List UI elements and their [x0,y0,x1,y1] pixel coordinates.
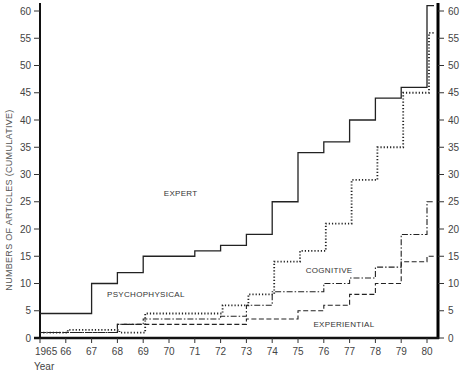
right-axis-tick-label: 50 [448,60,460,71]
right-axis-tick-label: 15 [448,251,460,262]
right-axis-tick-label: 30 [448,169,460,180]
x-axis-tick-label: 74 [267,346,279,357]
series-label-experiential: EXPERIENTIAL [313,320,374,329]
left-axis-tick-label: 20 [20,224,32,235]
series-label-psychophysical: PSYCHOPHYSICAL [107,290,185,299]
left-axis-tick-label: 45 [20,87,32,98]
right-y-axis: 051015202530354045505560 [438,3,460,344]
series-label-expert: EXPERT [164,189,198,198]
right-axis-tick-label: 60 [448,6,460,17]
left-axis-tick-label: 15 [20,251,32,262]
left-axis-tick-label: 0 [25,333,31,344]
right-axis-tick-label: 45 [448,87,460,98]
x-axis-tick-label: 70 [163,346,175,357]
left-axis-tick-label: 50 [20,60,32,71]
cumulative-articles-chart: 051015202530354045505560 051015202530354… [0,0,466,375]
right-axis-tick-label: 40 [448,115,460,126]
left-axis-tick-label: 25 [20,196,32,207]
series-label-cognitive: COGNITIVE [306,266,353,275]
y-axis-title: NUMBERS OF ARTICLES (CUMULATIVE) [4,109,14,290]
right-axis-tick-label: 10 [448,278,460,289]
right-axis-tick-label: 0 [448,333,454,344]
series-line-cognitive [40,33,434,333]
left-axis-tick-label: 10 [20,278,32,289]
series-line-psychophysical [40,202,434,333]
x-axis-tick-label: 1965 [35,346,58,357]
x-axis-tick-label: 78 [370,346,382,357]
x-axis-title: Year [34,361,55,372]
x-axis-tick-label: 77 [344,346,356,357]
x-axis-tick-label: 76 [318,346,330,357]
x-axis-tick-label: 80 [421,346,433,357]
left-axis-tick-label: 55 [20,33,32,44]
right-axis-tick-label: 55 [448,33,460,44]
series-line-expert [40,6,434,314]
x-axis-tick-label: 79 [396,346,408,357]
series-labels: EXPERTCOGNITIVEPSYCHOPHYSICALEXPERIENTIA… [107,189,375,329]
right-axis-tick-label: 35 [448,142,460,153]
left-axis-tick-label: 40 [20,115,32,126]
x-axis-tick-label: 69 [138,346,150,357]
x-axis-tick-label: 73 [241,346,253,357]
right-axis-tick-label: 25 [448,196,460,207]
x-axis-tick-label: 66 [60,346,72,357]
right-axis-tick-label: 5 [448,305,454,316]
left-y-axis: 051015202530354045505560 [20,3,40,344]
x-axis-tick-label: 72 [215,346,227,357]
left-axis-tick-label: 35 [20,142,32,153]
x-axis-tick-label: 75 [292,346,304,357]
right-axis-tick-label: 20 [448,224,460,235]
left-axis-tick-label: 30 [20,169,32,180]
left-axis-tick-label: 5 [25,305,31,316]
x-axis-tick-label: 68 [112,346,124,357]
series-lines [40,6,434,333]
left-axis-tick-label: 60 [20,6,32,17]
x-axis-tick-label: 71 [189,346,201,357]
x-axis-tick-label: 67 [86,346,98,357]
x-axis: 1965666768697071727374757677787980 [34,338,439,357]
